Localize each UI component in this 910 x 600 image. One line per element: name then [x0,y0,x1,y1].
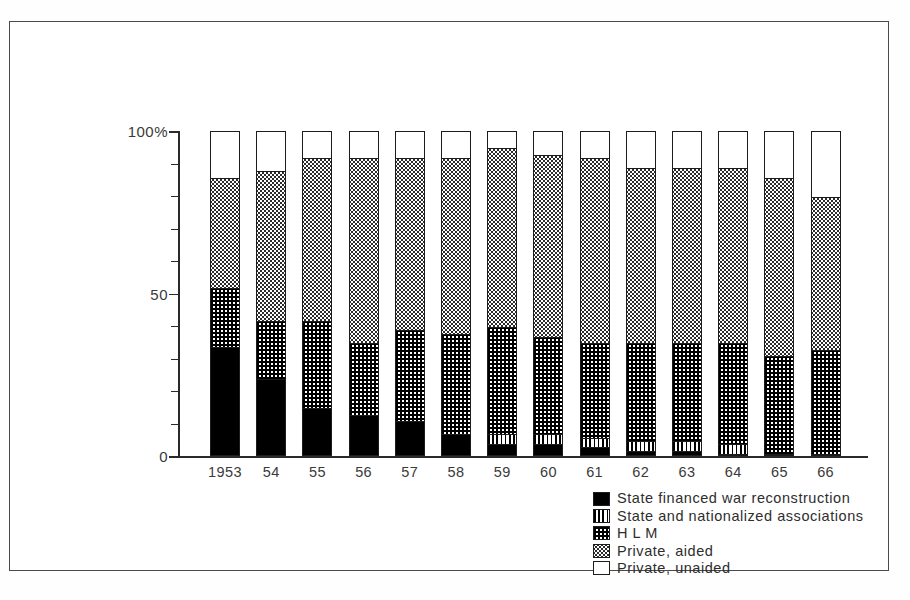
x-axis-line [178,456,868,458]
bar-59[interactable] [487,131,517,456]
bar-segment-57-checkerboard[interactable] [396,330,424,421]
bar-segment-59-checkerboard[interactable] [488,327,516,434]
segment-divider [257,379,285,380]
legend-swatch-solid-black [593,492,610,506]
y-axis-label-0: 0 [159,448,168,465]
bar-segment-55-fine-dots[interactable] [303,158,331,321]
bar-segment-58-checkerboard[interactable] [442,334,470,435]
segment-divider [211,288,239,289]
bar-54[interactable] [256,131,286,456]
bar-segment-56-fine-dots[interactable] [350,158,378,343]
bar-60[interactable] [533,131,563,456]
x-axis-label-55: 55 [294,464,340,480]
segment-divider [719,454,747,455]
segment-divider [719,168,747,169]
bar-segment-1953-fine-dots[interactable] [211,178,239,289]
bar-63[interactable] [672,131,702,456]
x-axis-label-62: 62 [618,464,664,480]
bar-segment-61-fine-dots[interactable] [581,158,609,343]
bar-segment-60-white[interactable] [534,132,562,155]
bar-segment-64-fine-dots[interactable] [719,168,747,344]
bar-segment-62-white[interactable] [627,132,655,168]
bar-segment-54-checkerboard[interactable] [257,321,285,380]
bar-segment-65-fine-dots[interactable] [765,178,793,357]
bar-segment-1953-white[interactable] [211,132,239,178]
bar-segment-65-white[interactable] [765,132,793,178]
bar-segment-65-checkerboard[interactable] [765,356,793,454]
bar-segment-59-vertical-stripes[interactable] [488,434,516,444]
bar-segment-62-vertical-stripes[interactable] [627,441,655,451]
bar-segment-61-solid-black[interactable] [581,447,609,456]
segment-divider [442,434,470,435]
bar-segment-59-white[interactable] [488,132,516,148]
bar-segment-59-solid-black[interactable] [488,444,516,456]
legend-item-0[interactable]: State financed war reconstruction [593,490,893,507]
bar-64[interactable] [718,131,748,456]
bar-62[interactable] [626,131,656,456]
bar-segment-63-fine-dots[interactable] [673,168,701,344]
bar-segment-61-vertical-stripes[interactable] [581,438,609,448]
bar-segment-60-checkerboard[interactable] [534,337,562,435]
bar-segment-64-vertical-stripes[interactable] [719,444,747,454]
segment-divider [488,434,516,435]
segment-divider [627,451,655,452]
bar-segment-64-white[interactable] [719,132,747,168]
bar-segment-62-checkerboard[interactable] [627,343,655,441]
bar-segment-55-solid-black[interactable] [303,408,331,456]
bar-segment-55-checkerboard[interactable] [303,321,331,409]
bar-segment-57-white[interactable] [396,132,424,158]
x-axis-label-58: 58 [433,464,479,480]
bar-65[interactable] [764,131,794,456]
bar-segment-64-checkerboard[interactable] [719,343,747,444]
bar-segment-60-vertical-stripes[interactable] [534,434,562,444]
segment-divider [350,343,378,344]
bar-segment-55-white[interactable] [303,132,331,158]
segment-divider [719,444,747,445]
bar-segment-54-white[interactable] [257,132,285,171]
bar-segment-60-fine-dots[interactable] [534,155,562,337]
bar-segment-66-fine-dots[interactable] [812,197,840,350]
bar-segment-1953-solid-black[interactable] [211,347,239,457]
bar-segment-56-white[interactable] [350,132,378,158]
legend-item-1[interactable]: State and nationalized associations [593,507,893,524]
segment-divider [211,347,239,348]
bar-segment-66-checkerboard[interactable] [812,350,840,454]
bar-segment-59-fine-dots[interactable] [488,148,516,327]
bar-segment-63-white[interactable] [673,132,701,168]
bar-segment-57-fine-dots[interactable] [396,158,424,330]
plot-area: 050100% 195354555657585960616263646566 [178,132,868,462]
bar-56[interactable] [349,131,379,456]
bar-segment-58-fine-dots[interactable] [442,158,470,334]
bar-1953[interactable] [210,131,240,456]
bar-segment-54-fine-dots[interactable] [257,171,285,321]
bar-segment-56-solid-black[interactable] [350,415,378,456]
bar-segment-61-checkerboard[interactable] [581,343,609,437]
segment-divider [581,343,609,344]
bar-57[interactable] [395,131,425,456]
bar-segment-58-solid-black[interactable] [442,434,470,456]
bar-58[interactable] [441,131,471,456]
bar-segment-63-vertical-stripes[interactable] [673,441,701,451]
bar-segment-54-solid-black[interactable] [257,379,285,456]
bar-66[interactable] [811,131,841,456]
bar-segment-62-fine-dots[interactable] [627,168,655,344]
bar-segment-60-solid-black[interactable] [534,444,562,456]
x-axis-label-56: 56 [341,464,387,480]
chart-legend: State financed war reconstructionState a… [593,490,893,577]
bar-61[interactable] [580,131,610,456]
bar-segment-58-white[interactable] [442,132,470,158]
legend-item-3[interactable]: Private, aided [593,542,893,559]
bar-55[interactable] [302,131,332,456]
bar-segment-56-checkerboard[interactable] [350,343,378,415]
bar-segment-63-checkerboard[interactable] [673,343,701,441]
legend-item-4[interactable]: Private, unaided [593,560,893,577]
legend-item-2[interactable]: H L M [593,525,893,542]
bar-segment-61-white[interactable] [581,132,609,158]
bar-segment-66-white[interactable] [812,132,840,197]
segment-divider [581,438,609,439]
x-axis-label-60: 60 [525,464,571,480]
segment-divider [581,447,609,448]
x-axis-label-65: 65 [756,464,802,480]
bar-segment-57-solid-black[interactable] [396,421,424,456]
bar-segment-1953-checkerboard[interactable] [211,288,239,347]
